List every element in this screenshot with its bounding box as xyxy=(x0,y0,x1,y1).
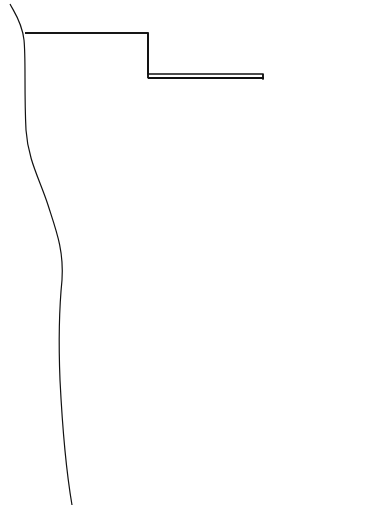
boundary-outline xyxy=(25,33,263,79)
site-plan xyxy=(0,0,377,509)
outline-full xyxy=(25,33,263,79)
wall-segments xyxy=(25,33,263,79)
excavation-edge-full xyxy=(148,78,263,79)
excavation-outline xyxy=(25,33,263,79)
excavation-boundary xyxy=(10,4,263,505)
